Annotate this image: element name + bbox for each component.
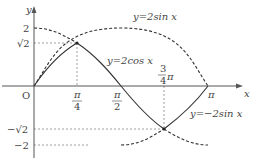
curve-2sinx-solid-segment: [34, 43, 77, 86]
label-2sinx: y=2sin x: [132, 11, 177, 22]
svg-text:4: 4: [160, 75, 166, 86]
svg-text:2: 2: [114, 101, 120, 112]
x-axis-label: x: [244, 88, 250, 99]
curve-2cosx-tail: [164, 129, 208, 145]
svg-text:π: π: [113, 89, 121, 100]
y-axis-label: y: [25, 4, 32, 15]
trig-graph: y x O 2 √2 −√2 −2 π 4 π 2 3 4 π π y=2sin…: [0, 0, 257, 160]
curve-neg2sinx-dashed-segment: [121, 129, 164, 145]
y-tick-2: 2: [23, 23, 29, 34]
y-tick-neg-sqrt2: −√2: [7, 124, 28, 135]
x-tick-3pi4: 3 4 π: [158, 63, 174, 86]
intersection-point-3pi4: [162, 127, 165, 130]
x-tick-pi2: π 2: [112, 89, 122, 112]
axes: [2, 6, 243, 158]
x-axis-arrow-icon: [236, 84, 243, 89]
origin-label: O: [22, 90, 30, 101]
svg-text:π: π: [166, 71, 174, 82]
curve-2cosx-dashed-segment: [34, 28, 77, 43]
svg-text:3: 3: [160, 63, 166, 74]
intersection-point-pi4: [75, 41, 78, 44]
x-tick-pi: π: [207, 89, 215, 100]
y-axis-arrow-icon: [32, 6, 37, 13]
svg-text:π: π: [73, 89, 81, 100]
y-tick-neg2: −2: [14, 140, 29, 151]
x-tick-pi4: π 4: [72, 89, 82, 112]
label-neg2sinx: y=−2sin x: [189, 108, 243, 119]
svg-text:4: 4: [74, 101, 80, 112]
label-2cosx: y=2cos x: [106, 55, 153, 66]
y-tick-sqrt2: √2: [17, 38, 30, 49]
